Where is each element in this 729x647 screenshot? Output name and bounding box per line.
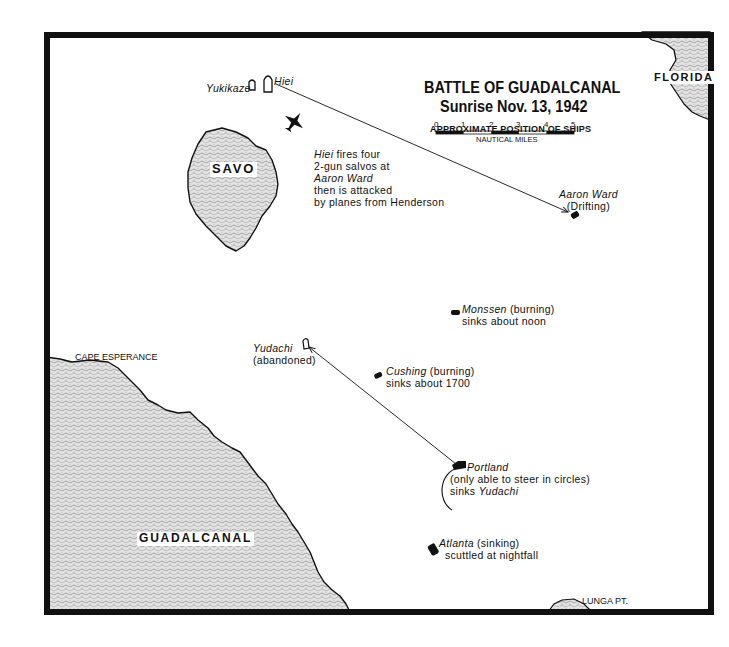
scale-tick-2: 2 (489, 120, 493, 129)
aaron-ward-label: Aaron Ward (Drifting) (559, 188, 618, 212)
scale-tick-3: 3 (516, 120, 520, 129)
hiei-note: Hiei fires four 2-gun salvos at Aaron Wa… (314, 148, 444, 208)
scale-tick-5: 5 (571, 120, 575, 129)
map-subtitle: APPROXIMATE POSITION OF SHIPS (430, 124, 591, 135)
guadalcanal-landmass (46, 357, 350, 612)
filled-ship-icon (374, 371, 383, 379)
lunga-point-label: LUNGA PT. (582, 596, 628, 606)
florida-label: FLORIDA (652, 71, 715, 84)
hiei-label: Hiei (274, 75, 293, 87)
savo-label: SAVO (210, 162, 257, 177)
scale-tick-1: 1 (461, 120, 465, 129)
cushing-label: Cushing (burning) sinks about 1700 (386, 365, 475, 389)
cape-esperance-label: CAPE ESPERANCE (75, 352, 158, 362)
savo-island (188, 128, 278, 251)
scale-unit-label: NAUTICAL MILES (476, 136, 537, 145)
map-canvas (0, 0, 729, 647)
map-title: BATTLE OF GUADALCANAL (424, 78, 569, 98)
map-date: Sunrise Nov. 13, 1942 (440, 97, 576, 117)
outline-ship-icon (264, 76, 272, 92)
portland-label: Portland (only able to steer in circles)… (450, 461, 590, 497)
scale-tick-0: 0 (434, 120, 438, 129)
guadalcanal-label: GUADALCANAL (137, 532, 254, 546)
atlanta-label: Atlanta (sinking) scuttled at nightfall (439, 537, 538, 561)
filled-ship-icon (451, 310, 460, 315)
plane-icon (279, 107, 309, 137)
yukikaze-label: Yukikaze (206, 82, 251, 94)
yudachi-label: Yudachi (abandoned) (253, 342, 316, 366)
monssen-label: Monssen (burning) sinks about noon (462, 303, 555, 327)
filled-ship-icon (427, 543, 439, 557)
scale-tick-4: 4 (544, 120, 548, 129)
